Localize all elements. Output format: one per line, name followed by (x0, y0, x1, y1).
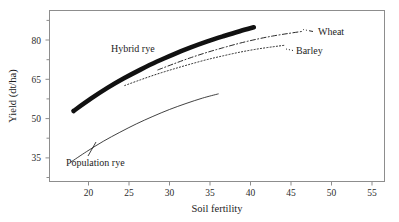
chart-figure: 80 65 50 35 20 25 30 35 40 45 50 55 Soil… (0, 0, 399, 222)
x-tick-label-55: 55 (367, 188, 377, 198)
series-label-population-rye: Population rye (66, 157, 125, 168)
series-label-wheat: Wheat (318, 26, 344, 37)
x-tick-label-45: 45 (286, 188, 296, 198)
x-tick-label-20: 20 (84, 188, 94, 198)
y-tick-label-50: 50 (32, 114, 42, 124)
x-tick-label-25: 25 (124, 188, 134, 198)
x-tick-label-40: 40 (246, 188, 256, 198)
series-label-hybrid-rye: Hybrid rye (111, 43, 155, 54)
x-tick-label-50: 50 (327, 188, 337, 198)
x-tick-label-30: 30 (165, 188, 175, 198)
series-label-barley: Barley (296, 45, 323, 56)
x-tick-label-35: 35 (205, 188, 215, 198)
yield-vs-soil-fertility-chart: 80 65 50 35 20 25 30 35 40 45 50 55 Soil… (0, 0, 399, 222)
y-tick-label-65: 65 (32, 75, 42, 85)
y-axis-title: Yield (dt/ha) (7, 69, 19, 123)
y-tick-label-80: 80 (32, 36, 42, 46)
y-tick-label-35: 35 (32, 153, 42, 163)
x-axis-title: Soil fertility (191, 203, 243, 214)
